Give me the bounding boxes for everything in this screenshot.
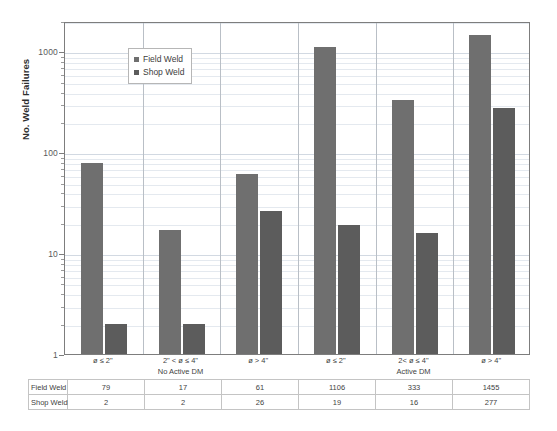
gridline [65,159,529,160]
y-tick-mark-minor [61,123,64,124]
y-tick-mark [59,254,64,255]
gridline [65,177,529,178]
bar-shop-weld-0 [105,324,127,354]
legend-label-field-weld: Field Weld [143,53,183,66]
bar-shop-weld-5 [493,108,515,354]
y-tick-mark-minor [61,22,64,23]
legend-swatch-field-weld-icon [134,57,139,62]
weld-failures-chart-figure: No. Weld Failures 1101001000 Field Weld … [0,0,557,431]
gridline [65,94,529,95]
y-tick-mark-minor [61,277,64,278]
y-tick-mark-minor [61,158,64,159]
category-label-0: ø ≤ 2" [64,356,142,365]
category-separator [376,23,377,354]
category-label-1: 2" < ø ≤ 4" [142,356,220,365]
chart-legend: Field Weld Shop Weld [128,48,192,84]
y-tick-mark [59,52,64,53]
category-label-3: ø ≤ 2" [297,356,375,365]
y-tick-mark-minor [61,206,64,207]
y-tick-mark [59,153,64,154]
bar-shop-weld-1 [183,324,205,354]
category-label-2: ø > 4" [219,356,297,365]
group-labels: No Active DMActive DM [64,367,530,379]
bar-field-weld-0 [81,163,103,354]
y-tick-mark-minor [61,62,64,63]
category-separator [220,23,221,354]
bar-field-weld-4 [392,100,414,354]
group-label-1: Active DM [297,367,530,376]
y-tick-mark-minor [61,68,64,69]
y-tick-mark-minor [61,184,64,185]
gridline [65,185,529,186]
y-tick-mark-minor [61,264,64,265]
gridline [65,106,529,107]
gridline [65,154,529,155]
y-tick-label: 1 [18,350,58,360]
gridline [65,124,529,125]
y-tick-mark-minor [61,325,64,326]
legend-label-shop-weld: Shop Weld [143,66,184,79]
y-tick-mark-minor [61,163,64,164]
table-cell-r1-c0: 2 [68,395,145,410]
category-separator [298,23,299,354]
legend-swatch-shop-weld-icon [134,70,139,75]
category-label-5: ø > 4" [452,356,530,365]
group-label-0: No Active DM [64,367,297,376]
table-cell-r0-c0: 79 [68,380,145,395]
y-tick-mark-minor [61,57,64,58]
y-tick-mark-minor [61,294,64,295]
gridline [65,194,529,195]
category-label-4: 2< ø ≤ 4" [375,356,453,365]
y-axis-title: No. Weld Failures [20,0,31,140]
y-tick-mark-minor [61,193,64,194]
bar-field-weld-5 [469,35,491,354]
table-cell-r0-c5: 1455 [453,380,530,395]
y-tick-mark-minor [61,93,64,94]
gridline [65,170,529,171]
y-tick-mark-minor [61,259,64,260]
table-cell-r0-c3: 1106 [299,380,376,395]
gridline [65,255,529,256]
table-cell-r1-c3: 19 [299,395,376,410]
gridline [65,260,529,261]
bar-field-weld-3 [314,47,336,354]
legend-item-field-weld: Field Weld [134,53,184,66]
table-row-header-0: Field Weld [29,380,68,395]
bar-shop-weld-2 [260,211,282,354]
gridline [65,326,529,327]
data-table: Field Weld79176111063331455Shop Weld2226… [28,379,530,410]
y-tick-mark-minor [61,169,64,170]
y-tick-mark-minor [61,270,64,271]
table-row: Shop Weld22261916277 [29,395,530,410]
bar-shop-weld-3 [338,225,360,354]
y-tick-mark-minor [61,224,64,225]
gridline [65,225,529,226]
gridline [65,271,529,272]
y-tick-label: 10 [18,249,58,259]
gridline [65,295,529,296]
table-cell-r0-c2: 61 [222,380,299,395]
bar-field-weld-2 [236,174,258,354]
gridline [65,308,529,309]
y-tick-mark-minor [61,176,64,177]
gridline [65,285,529,286]
gridline [65,164,529,165]
y-tick-mark-minor [61,83,64,84]
y-tick-mark-minor [61,284,64,285]
table-cell-r1-c1: 2 [145,395,222,410]
category-separator [453,23,454,354]
table-row-header-1: Shop Weld [29,395,68,410]
gridline [65,23,529,24]
y-tick-label: 1000 [18,47,58,57]
legend-item-shop-weld: Shop Weld [134,66,184,79]
table-cell-r1-c4: 16 [376,395,453,410]
y-tick-mark-minor [61,307,64,308]
table-cell-r1-c5: 277 [453,395,530,410]
bar-shop-weld-4 [416,233,438,354]
gridline [65,278,529,279]
table-cell-r0-c4: 333 [376,380,453,395]
bar-field-weld-1 [159,230,181,354]
table-row: Field Weld79176111063331455 [29,380,530,395]
table-cell-r0-c1: 17 [145,380,222,395]
y-tick-label: 100 [18,148,58,158]
